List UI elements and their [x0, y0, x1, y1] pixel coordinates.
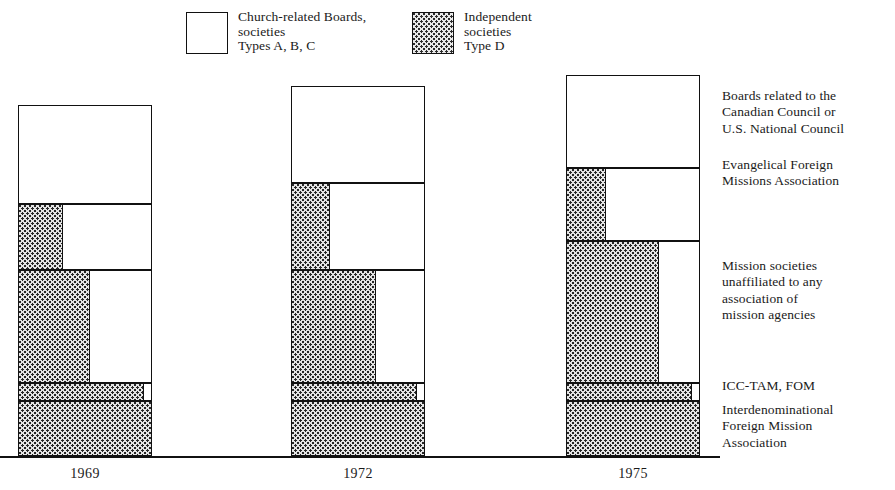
annotation-5: Interdenominational Foreign Mission Asso… [722, 402, 833, 451]
segment-dotted-fill [567, 384, 692, 400]
bar-segment-1972-4 [291, 383, 425, 401]
segment-dotted-fill [567, 169, 606, 240]
legend-entry-1: Church-related Boards,societiesTypes A, … [186, 10, 366, 54]
bar-segment-1972-3 [291, 270, 425, 383]
legend-label-line: Church-related Boards, [238, 10, 366, 25]
bar-segment-1975-1 [566, 75, 700, 168]
bar-segment-1969-5 [18, 401, 152, 456]
annotation-4: ICC-TAM, FOM [722, 378, 815, 394]
legend-label-line: Type D [464, 39, 532, 54]
legend-label: IndependentsocietiesType D [464, 10, 532, 54]
year-label-1975: 1975 [593, 466, 673, 482]
annotation-3: Mission societies unaffiliated to any as… [722, 258, 823, 324]
bar-segment-1975-4 [566, 383, 700, 401]
segment-dotted-fill [19, 271, 90, 382]
bar-segment-1969-1 [18, 105, 152, 204]
segment-dotted-fill [19, 205, 63, 269]
segment-dotted-fill [292, 184, 330, 269]
legend-swatch-plain [186, 12, 228, 54]
annotation-2: Evangelical Foreign Missions Association [722, 157, 839, 190]
year-label-1969: 1969 [45, 466, 125, 482]
bar-segment-1969-2 [18, 204, 152, 270]
segment-dotted-fill [19, 402, 152, 455]
legend-entry-2: IndependentsocietiesType D [412, 10, 532, 54]
stacked-bar-chart: Church-related Boards,societiesTypes A, … [0, 0, 895, 490]
legend-label-line: Independent [464, 10, 532, 25]
segment-dotted-fill [567, 242, 659, 382]
x-axis-baseline [0, 456, 720, 458]
legend-label-line: societies [238, 25, 366, 40]
year-label-1972: 1972 [318, 466, 398, 482]
legend-swatch-dotted [412, 12, 454, 54]
annotation-1: Boards related to the Canadian Council o… [722, 88, 844, 137]
bar-segment-1975-3 [566, 241, 700, 383]
bar-segment-1972-1 [291, 86, 425, 183]
bar-segment-1972-2 [291, 183, 425, 270]
legend-label-line: Types A, B, C [238, 39, 366, 54]
segment-dotted-fill [567, 402, 700, 455]
bar-segment-1969-3 [18, 270, 152, 383]
segment-dotted-fill [292, 271, 376, 382]
legend-label: Church-related Boards,societiesTypes A, … [238, 10, 366, 54]
segment-dotted-fill [292, 402, 425, 455]
bar-segment-1975-5 [566, 401, 700, 456]
bar-segment-1969-4 [18, 383, 152, 401]
bar-segment-1972-5 [291, 401, 425, 456]
bar-segment-1975-2 [566, 168, 700, 241]
legend-label-line: societies [464, 25, 532, 40]
segment-dotted-fill [292, 384, 417, 400]
segment-dotted-fill [19, 384, 144, 400]
